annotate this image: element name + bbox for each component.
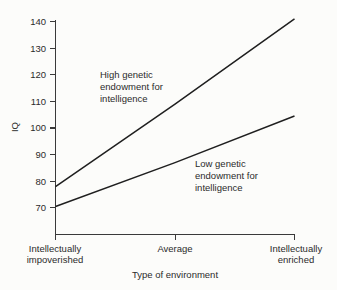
annotation-high-line2: endowment for bbox=[100, 81, 163, 92]
x-axis-title: Type of environment bbox=[132, 269, 218, 280]
annotation-high-line1: High genetic bbox=[100, 69, 153, 80]
y-axis-title: IQ bbox=[9, 122, 20, 132]
x-label-middle: Average bbox=[157, 243, 192, 254]
annotation-low-line1: Low genetic bbox=[195, 158, 246, 169]
x-label-right-line1: Intellectually bbox=[270, 243, 323, 254]
y-tick-label-120: 120 bbox=[30, 69, 46, 80]
y-tick-label-70: 70 bbox=[35, 202, 46, 213]
x-label-right-line2: enriched bbox=[278, 254, 314, 265]
y-tick-label-80: 80 bbox=[35, 176, 46, 187]
annotation-low-line3: intelligence bbox=[195, 182, 243, 193]
x-label-left-line2: impoverished bbox=[27, 254, 84, 265]
y-tick-label-90: 90 bbox=[35, 149, 46, 160]
annotation-low-line2: endowment for bbox=[195, 170, 258, 181]
series-line-high-genetic bbox=[56, 19, 295, 187]
annotation-high-line3: intelligence bbox=[100, 93, 148, 104]
iq-environment-line-chart: 140 130 120 110 100 90 80 70 IQ Intellec… bbox=[0, 0, 337, 290]
x-label-left-line1: Intellectually bbox=[29, 243, 82, 254]
chart-figure: 140 130 120 110 100 90 80 70 IQ Intellec… bbox=[0, 0, 337, 290]
y-tick-label-100: 100 bbox=[30, 122, 46, 133]
y-tick-label-110: 110 bbox=[31, 96, 46, 107]
y-tick-label-130: 130 bbox=[30, 43, 46, 54]
y-tick-label-140: 140 bbox=[30, 16, 46, 27]
